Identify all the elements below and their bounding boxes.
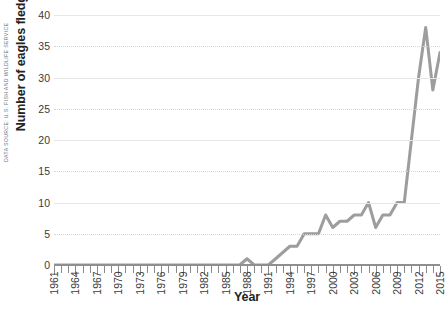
data-source-credit: DATA SOURCE: U.S. FISH AND WILDLIFE SERV… [0, 2, 12, 162]
y-tick-label: 15 [16, 166, 50, 176]
y-tick-label: 40 [16, 10, 50, 20]
y-tick-label: 5 [16, 229, 50, 239]
gridline [54, 203, 440, 204]
x-tick [297, 266, 298, 273]
eagles-fledged-series [54, 28, 440, 266]
x-axis-title: Year [54, 290, 440, 304]
y-tick-label: 30 [16, 73, 50, 83]
x-tick [340, 266, 341, 273]
x-tick [211, 266, 212, 273]
y-tick-label: 10 [16, 198, 50, 208]
x-tick [125, 266, 126, 273]
gridline [54, 234, 440, 235]
x-tick [276, 266, 277, 273]
gridline [54, 15, 440, 16]
y-tick-label: 25 [16, 104, 50, 114]
y-axis-tick-labels: 0510152025303540 [12, 15, 50, 265]
x-tick [61, 266, 62, 273]
x-tick [147, 266, 148, 273]
gridline [54, 46, 440, 47]
y-tick-label: 0 [16, 260, 50, 270]
y-tick-label: 35 [16, 41, 50, 51]
y-tick-label: 20 [16, 135, 50, 145]
gridline [54, 109, 440, 110]
x-tick [83, 266, 84, 273]
x-tick [404, 266, 405, 273]
gridline [54, 78, 440, 79]
x-tick [168, 266, 169, 273]
gridline [54, 140, 440, 141]
x-tick [361, 266, 362, 273]
plot-area [54, 15, 440, 265]
x-tick [104, 266, 105, 273]
x-tick [318, 266, 319, 273]
chart-page: DATA SOURCE: U.S. FISH AND WILDLIFE SERV… [0, 0, 448, 313]
x-tick [254, 266, 255, 273]
gridline [54, 171, 440, 172]
